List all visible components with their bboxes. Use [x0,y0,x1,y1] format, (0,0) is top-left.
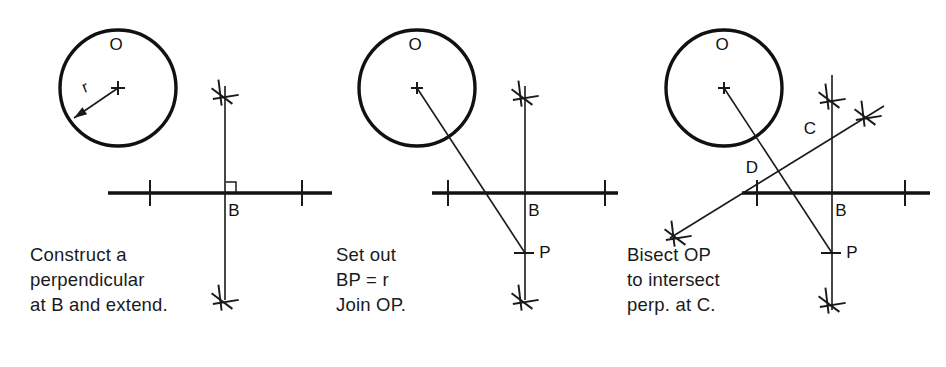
label-center-o: O [408,35,421,54]
construction-figure: O r B Construct aperpendicularat B and e… [0,0,946,367]
radius-arrowhead [74,107,87,118]
label-center-o: O [109,35,122,54]
right-angle-marker [226,182,236,192]
label-point-b: B [228,201,239,220]
caption-line: Construct a [30,244,127,265]
label-point-b: B [528,201,539,220]
bisector-line [670,106,884,238]
panel-3-caption: Bisect OPto intersectperp. at C. [627,244,720,315]
figure-canvas: O r B Construct aperpendicularat B and e… [0,0,946,367]
panel-1-caption: Construct aperpendicularat B and extend. [30,244,168,315]
panel-2: O B P Set outBP = rJoin OP. [336,30,618,315]
radius-arrow [74,88,118,118]
label-point-d: D [746,158,758,177]
caption-line: perpendicular [30,269,145,290]
label-point-p: P [846,243,857,262]
panel-2-caption: Set outBP = rJoin OP. [336,244,406,315]
caption-line: Set out [336,244,396,265]
label-point-b: B [835,201,846,220]
caption-line: BP = r [336,269,389,290]
caption-line: at B and extend. [30,294,168,315]
panel-1: O r B Construct aperpendicularat B and e… [30,30,332,315]
caption-line: Bisect OP [627,244,711,265]
panel-3: O B P C D Bisect OPto intersectperp. at … [627,30,930,315]
caption-line: to intersect [627,269,720,290]
caption-line: Join OP. [336,294,406,315]
caption-line: perp. at C. [627,294,716,315]
label-point-c: C [804,119,816,138]
label-point-p: P [539,243,550,262]
label-radius-r: r [79,78,91,96]
label-center-o: O [715,35,728,54]
